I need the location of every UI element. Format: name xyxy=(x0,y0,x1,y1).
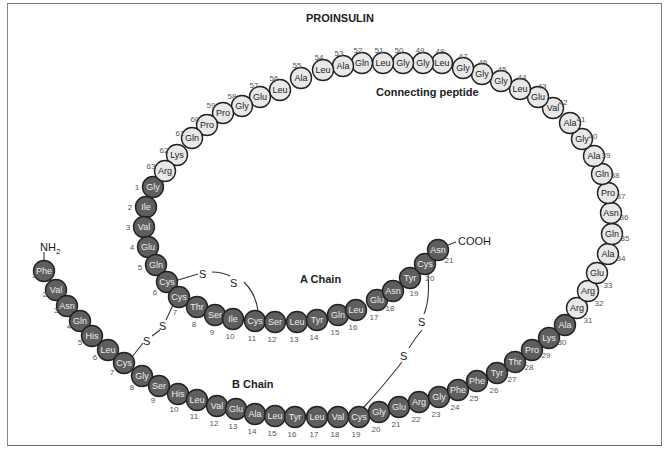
residue-number: 57 xyxy=(250,81,259,90)
residue-abbreviation: Lys xyxy=(542,333,556,343)
residue-number: 9 xyxy=(210,328,215,337)
residue-abbreviation: Leu xyxy=(189,395,204,405)
residue-number: 12 xyxy=(268,335,277,344)
residue-abbreviation: Ala xyxy=(601,249,614,259)
residue-number: 56 xyxy=(270,74,279,83)
n-terminus-label: NH2 xyxy=(40,241,61,256)
residue-number: 30 xyxy=(558,338,567,347)
residue-number: 50 xyxy=(395,46,404,55)
residue-abbreviation: Ala xyxy=(336,61,349,71)
residue-abbreviation: Gly xyxy=(432,392,446,402)
residue-abbreviation: Leu xyxy=(434,58,449,68)
residue-number: 35 xyxy=(621,234,630,243)
residue-number: 6 xyxy=(153,288,158,297)
c-terminus-bond xyxy=(448,242,456,245)
residue-abbreviation: Gln xyxy=(149,260,163,270)
connecting-peptide-residue-52: Gln52 xyxy=(352,46,373,74)
residue-number: 51 xyxy=(375,46,384,55)
a-chain-residue-14: Tyr14 xyxy=(307,310,328,343)
residue-number: 27 xyxy=(508,375,517,384)
residue-abbreviation: Tyr xyxy=(289,412,302,422)
residue-number: 52 xyxy=(354,46,363,55)
residue-abbreviation: Gly xyxy=(235,101,249,111)
residue-number: 11 xyxy=(248,334,257,343)
residue-number: 4 xyxy=(130,243,135,252)
a-chain-residue-16: Leu16 xyxy=(346,300,367,333)
residue-abbreviation: Val xyxy=(332,412,344,422)
residue-abbreviation: Gln xyxy=(595,169,609,179)
residue-abbreviation: Gly xyxy=(135,371,149,381)
residue-number: 47 xyxy=(459,52,468,61)
proinsulin-diagram: S S S S S S Gly1Ile2Val3Glu4Gln5Cys6Cys7… xyxy=(0,0,670,456)
residue-number: 9 xyxy=(151,396,156,405)
a-chain-residue-10: Ile10 xyxy=(223,309,244,342)
residue-abbreviation: Leu xyxy=(348,305,363,315)
residue-abbreviation: Ser xyxy=(268,317,282,327)
residue-abbreviation: Gly xyxy=(456,63,470,73)
connecting-peptide-residue-48: Leu48 xyxy=(432,47,453,74)
residue-number: 32 xyxy=(595,299,604,308)
residue-number: 21 xyxy=(392,420,401,429)
b-chain-residue-14: Ala14 xyxy=(245,404,266,437)
residue-number: 23 xyxy=(432,410,441,419)
residue-number: 59 xyxy=(207,101,216,110)
b-chain-residue-10: His10 xyxy=(168,384,189,415)
connecting-peptide-residue-49: Gly49 xyxy=(413,46,434,74)
b-chain-label: B Chain xyxy=(232,378,274,390)
b-chain-residue-19: Cys19 xyxy=(349,407,370,440)
residue-abbreviation: Glu xyxy=(392,402,406,412)
residue-abbreviation: Leu xyxy=(272,85,287,95)
residue-number: 42 xyxy=(559,98,568,107)
residue-number: 61 xyxy=(176,129,185,138)
residue-number: 17 xyxy=(370,313,379,322)
residue-abbreviation: Cys xyxy=(159,277,175,287)
residue-number: 26 xyxy=(490,386,499,395)
residue-abbreviation: Gly xyxy=(416,58,430,68)
connecting-peptide-residue-44: Leu44 xyxy=(510,73,531,100)
residue-abbreviation: Pro xyxy=(525,345,539,355)
connecting-peptide-residue-35: Gln35 xyxy=(602,224,630,245)
residue-abbreviation: Glu xyxy=(141,242,155,252)
residue-number: 13 xyxy=(290,335,299,344)
residue-abbreviation: Cys xyxy=(116,358,132,368)
residue-number: 37 xyxy=(617,192,626,201)
residue-number: 1 xyxy=(32,271,37,280)
residue-abbreviation: Arg xyxy=(412,397,426,407)
residue-number: 6 xyxy=(93,353,98,362)
residue-number: 40 xyxy=(589,132,598,141)
residue-abbreviation: Leu xyxy=(100,345,115,355)
residue-abbreviation: His xyxy=(172,389,185,399)
b-chain-residue-29: Lys29 xyxy=(539,328,560,361)
b-chain-residue-1: Phe1 xyxy=(32,261,55,282)
residue-number: 3 xyxy=(126,223,131,232)
c-terminus-label: COOH xyxy=(458,235,491,247)
connecting-peptide-residue-36: Asn36 xyxy=(601,203,629,224)
residue-abbreviation: Thr xyxy=(508,357,522,367)
residue-abbreviation: Leu xyxy=(512,84,527,94)
diagram-title: PROINSULIN xyxy=(306,12,374,24)
residue-abbreviation: His xyxy=(86,331,99,341)
residue-number: 12 xyxy=(210,419,219,428)
sulfur-atom: S xyxy=(199,268,206,280)
n-terminus-subscript: 2 xyxy=(56,247,61,256)
residue-abbreviation: Gln xyxy=(73,316,87,326)
b-chain-residue-25: Phe25 xyxy=(467,371,488,404)
connecting-peptide-label: Connecting peptide xyxy=(376,86,479,98)
residue-abbreviation: Gln xyxy=(331,310,345,320)
residue-abbreviation: Leu xyxy=(289,317,304,327)
connecting-peptide-residue-51: Leu51 xyxy=(373,46,394,74)
residue-abbreviation: Val xyxy=(211,401,223,411)
residue-abbreviation: Asn xyxy=(59,301,75,311)
b-chain-residue-22: Arg22 xyxy=(409,392,430,425)
residue-number: 46 xyxy=(479,58,488,67)
residue-number: 49 xyxy=(416,46,425,55)
residue-abbreviation: Gln xyxy=(355,58,369,68)
residue-number: 8 xyxy=(130,383,135,392)
residue-number: 5 xyxy=(78,338,83,347)
residue-abbreviation: Glu xyxy=(370,295,384,305)
residue-number: 55 xyxy=(293,61,302,70)
connecting-peptide-residue-34: Ala34 xyxy=(598,244,626,265)
connecting-peptide-residue-46: Gly46 xyxy=(472,58,493,85)
residue-number: 62 xyxy=(160,146,169,155)
a-chain-residue-3: Val3 xyxy=(126,217,155,238)
